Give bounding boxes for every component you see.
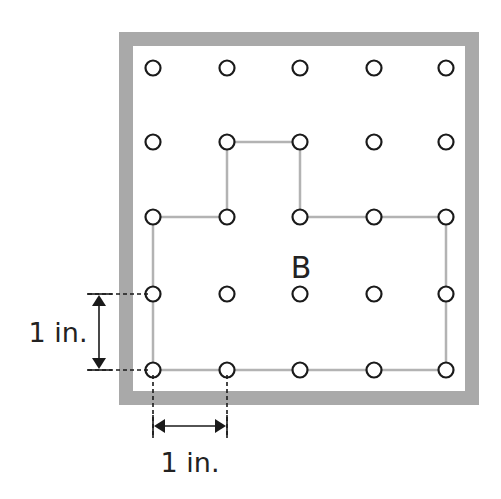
peg-r4-c2	[293, 363, 308, 378]
peg-grid	[146, 61, 454, 378]
vertical-dimension-label: 1 in.	[29, 317, 88, 348]
peg-r0-c3	[367, 61, 382, 76]
peg-r2-c2	[293, 210, 308, 225]
arrow-up-icon	[92, 295, 106, 306]
shape-label: B	[291, 250, 312, 285]
peg-r0-c0	[146, 61, 161, 76]
peg-r4-c3	[367, 363, 382, 378]
peg-r2-c0	[146, 210, 161, 225]
peg-r3-c1	[220, 287, 235, 302]
peg-r0-c2	[293, 61, 308, 76]
peg-r2-c3	[367, 210, 382, 225]
peg-r1-c2	[293, 135, 308, 150]
horizontal-dimension	[153, 375, 227, 438]
peg-r1-c4	[439, 135, 454, 150]
peg-r0-c4	[439, 61, 454, 76]
geoboard-diagram: B 1 in. 1 in.	[0, 0, 501, 499]
peg-r0-c1	[220, 61, 235, 76]
horizontal-dimension-label: 1 in.	[161, 447, 220, 478]
peg-r1-c1	[220, 135, 235, 150]
peg-r3-c2	[293, 287, 308, 302]
peg-r3-c4	[439, 287, 454, 302]
arrow-left-icon	[154, 419, 165, 433]
peg-r1-c3	[367, 135, 382, 150]
peg-r3-c3	[367, 287, 382, 302]
peg-r2-c4	[439, 210, 454, 225]
vertical-dimension	[87, 294, 148, 370]
peg-r1-c0	[146, 135, 161, 150]
arrow-right-icon	[215, 419, 226, 433]
peg-r4-c4	[439, 363, 454, 378]
arrow-down-icon	[92, 358, 106, 369]
peg-r2-c1	[220, 210, 235, 225]
